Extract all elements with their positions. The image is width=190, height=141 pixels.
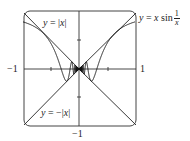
fraction-denominator: x	[174, 19, 180, 27]
label-abs: y = |x|	[43, 18, 67, 28]
curve-abs-right	[79, 13, 136, 69]
y-axis-min-label: −1	[72, 129, 83, 139]
curve-negabs-right	[79, 69, 136, 125]
x-axis-max-label: 1	[140, 64, 145, 74]
label-x-sin-inv-x: y = x sin1x	[139, 10, 180, 27]
label-negabs: y = −|x|	[41, 108, 70, 118]
x-axis-min-label: −1	[7, 64, 18, 74]
